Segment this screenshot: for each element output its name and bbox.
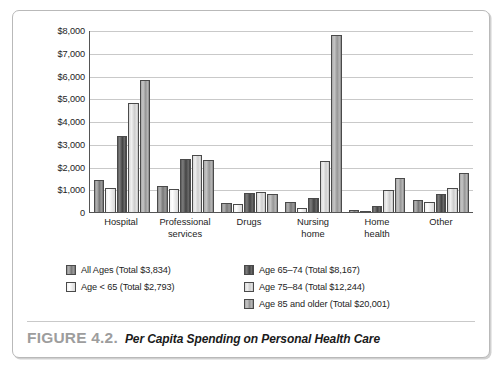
y-axis-tick-label: $2,000 (57, 163, 85, 173)
bar[interactable] (180, 159, 191, 212)
bar[interactable] (372, 206, 383, 212)
y-axis-tick-label: $8,000 (57, 26, 85, 36)
legend-column-left: All Ages (Total $3,834)Age < 65 (Total $… (66, 263, 226, 315)
bar[interactable] (320, 161, 331, 212)
bar[interactable] (413, 200, 424, 212)
bar[interactable] (169, 189, 180, 212)
bar-group (218, 31, 282, 212)
bar[interactable] (128, 103, 139, 212)
bar[interactable] (105, 188, 116, 212)
y-axis-tick-label: $3,000 (57, 140, 85, 150)
bar-group (90, 31, 154, 212)
bar[interactable] (233, 204, 244, 212)
bar[interactable] (424, 202, 435, 212)
legend-column-right: Age 65–74 (Total $8,167)Age 75–84 (Total… (244, 263, 436, 315)
bar[interactable] (192, 155, 203, 212)
plot-box (89, 31, 473, 213)
y-axis-tick-label: $5,000 (57, 94, 85, 104)
bar-group (154, 31, 218, 212)
bar-group (345, 31, 409, 212)
legend-label: Age 65–74 (Total $8,167) (259, 265, 360, 275)
bar[interactable] (395, 178, 406, 212)
caption-title: Per Capita Spending on Personal Health C… (125, 332, 380, 346)
caption-figure-number: FIGURE 4.2. (27, 329, 118, 347)
bar[interactable] (436, 194, 447, 212)
bar[interactable] (360, 211, 371, 212)
bar[interactable] (244, 193, 255, 212)
legend-label: Age 85 and older (Total $20,001) (259, 299, 390, 309)
caption-divider (27, 321, 475, 322)
bar[interactable] (308, 198, 319, 212)
y-axis-tick-label: $6,000 (57, 72, 85, 82)
x-axis-tick-label: Nursinghome (281, 217, 345, 240)
bar[interactable] (349, 210, 360, 213)
figure-container: $8,000$7,000$6,000$5,000$4,000$3,000$2,0… (12, 10, 490, 358)
bar[interactable] (297, 208, 308, 212)
legend-item[interactable]: Age 65–74 (Total $8,167) (244, 263, 436, 276)
bar-group (281, 31, 345, 212)
bar[interactable] (157, 186, 168, 212)
x-axis-tick-label: Hospital (89, 217, 153, 240)
bar[interactable] (459, 173, 470, 212)
legend-label: All Ages (Total $3,834) (81, 265, 171, 275)
bar[interactable] (117, 136, 128, 212)
y-axis-tick-label: $1,000 (57, 185, 85, 195)
x-axis-tick-label: Other (409, 217, 473, 240)
y-axis-tick-label: $7,000 (57, 49, 85, 59)
legend-swatch (244, 282, 254, 292)
bar[interactable] (203, 160, 214, 212)
chart-plot-area: $8,000$7,000$6,000$5,000$4,000$3,000$2,0… (13, 11, 489, 263)
chart-legend: All Ages (Total $3,834)Age < 65 (Total $… (13, 263, 489, 315)
bar[interactable] (256, 192, 267, 212)
bar[interactable] (447, 188, 458, 212)
legend-swatch (244, 265, 254, 275)
y-axis: $8,000$7,000$6,000$5,000$4,000$3,000$2,0… (31, 11, 85, 263)
legend-swatch (244, 299, 254, 309)
bar[interactable] (267, 194, 278, 212)
y-axis-tick-label: 0 (80, 208, 85, 218)
x-axis-tick-label: Drugs (217, 217, 281, 240)
bar[interactable] (221, 203, 232, 212)
legend-item[interactable]: Age 75–84 (Total $12,244) (244, 280, 436, 293)
legend-item[interactable]: All Ages (Total $3,834) (66, 263, 226, 276)
legend-swatch (66, 265, 76, 275)
bars-layer (90, 31, 473, 212)
bar-group (409, 31, 473, 212)
bar[interactable] (94, 180, 105, 212)
y-axis-tick-label: $4,000 (57, 117, 85, 127)
legend-item[interactable]: Age 85 and older (Total $20,001) (244, 297, 436, 310)
bar[interactable] (140, 80, 151, 212)
x-axis-tick-label: Professionalservices (153, 217, 217, 240)
legend-item[interactable]: Age < 65 (Total $2,793) (66, 280, 226, 293)
legend-label: Age < 65 (Total $2,793) (81, 282, 174, 292)
bar[interactable] (331, 35, 342, 212)
legend-swatch (66, 282, 76, 292)
bar[interactable] (285, 202, 296, 212)
x-axis: HospitalProfessionalservicesDrugsNursing… (89, 217, 473, 240)
legend-label: Age 75–84 (Total $12,244) (259, 282, 365, 292)
bar[interactable] (383, 190, 394, 212)
x-axis-tick-label: Homehealth (345, 217, 409, 240)
figure-caption: FIGURE 4.2. Per Capita Spending on Perso… (27, 329, 475, 347)
